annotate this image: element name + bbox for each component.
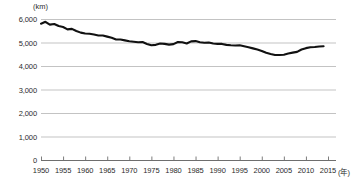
data-line-series-0 <box>41 22 324 55</box>
plot-area <box>0 0 351 186</box>
line-chart: (km) 01,0002,0003,0004,0005,0006,000 195… <box>0 0 351 186</box>
